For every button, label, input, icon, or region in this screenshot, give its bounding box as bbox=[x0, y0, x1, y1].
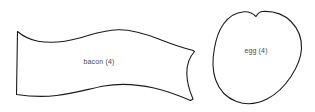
egg-shape[interactable] bbox=[213, 11, 302, 103]
shapes-svg bbox=[0, 0, 315, 112]
drawing-canvas: bacon (4) egg (4) bbox=[0, 0, 315, 112]
bacon-shape[interactable] bbox=[17, 30, 195, 101]
